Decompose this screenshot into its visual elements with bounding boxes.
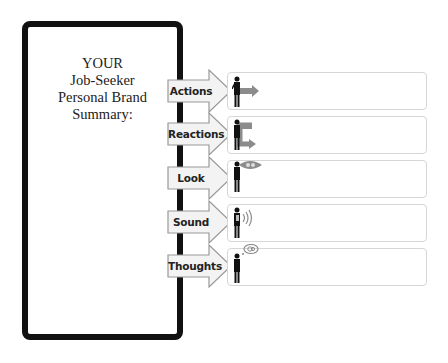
arrow-label-sound: Sound bbox=[168, 210, 214, 234]
row-look: Look bbox=[0, 156, 448, 200]
arrow-label-thoughts: Thoughts bbox=[168, 254, 214, 278]
row-actions: Actions bbox=[0, 69, 448, 113]
person-thought-bubble-icon bbox=[232, 244, 268, 280]
arrow-label-look: Look bbox=[168, 166, 214, 190]
row-reactions: Reactions bbox=[0, 112, 448, 156]
arrow-label-reactions: Reactions bbox=[168, 122, 214, 146]
person-pointing-arrow-icon bbox=[232, 75, 268, 111]
person-sound-waves-icon bbox=[232, 206, 268, 242]
person-return-arrow-icon bbox=[232, 118, 268, 154]
row-thoughts: Thoughts bbox=[0, 244, 448, 288]
row-sound: Sound bbox=[0, 200, 448, 244]
arrow-label-actions: Actions bbox=[168, 79, 214, 103]
person-eye-icon bbox=[232, 158, 268, 194]
